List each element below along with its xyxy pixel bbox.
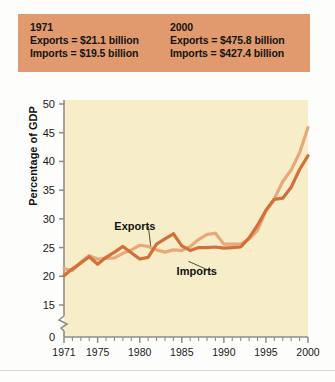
x-tick-label: 1995 (254, 346, 278, 358)
y-tick-label: 50 (43, 98, 55, 110)
x-tick-label: 1985 (170, 346, 194, 358)
y-tick-label: 20 (43, 270, 55, 282)
x-tick-label: 1980 (128, 346, 152, 358)
series-annotation-imports: Imports (177, 265, 217, 277)
chart-figure: 1971 Exports = $21.1 billion Imports = $… (0, 0, 335, 382)
x-tick-label: 1971 (52, 346, 76, 358)
y-tick-label: 35 (43, 184, 55, 196)
y-tick-label: 15 (43, 299, 55, 311)
y-tick-label: 25 (43, 242, 55, 254)
y-tick-label: 0 (49, 331, 55, 343)
x-tick-label: 2000 (296, 346, 320, 358)
line-chart-plot: 0152025303540455019711975198019851990199… (0, 0, 335, 382)
y-tick-label: 30 (43, 213, 55, 225)
series-annotation-exports: Exports (114, 220, 155, 232)
x-tick-label: 1990 (212, 346, 236, 358)
x-tick-label: 1975 (86, 346, 110, 358)
y-tick-label: 40 (43, 155, 55, 167)
plot-background (64, 100, 308, 337)
y-tick-label: 45 (43, 127, 55, 139)
bottom-divider (0, 370, 335, 371)
